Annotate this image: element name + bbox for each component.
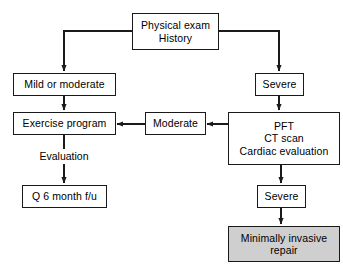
node-moderate-label: Moderate bbox=[153, 117, 198, 130]
node-mild-or-moderate-label: Mild or moderate bbox=[24, 78, 104, 91]
node-exercise-program[interactable]: Exercise program bbox=[13, 112, 116, 135]
flowchart-canvas: Physical exam History Mild or moderate S… bbox=[0, 0, 343, 269]
node-mild-or-moderate[interactable]: Mild or moderate bbox=[13, 73, 116, 96]
node-exercise-program-label: Exercise program bbox=[23, 117, 107, 130]
node-severe-top[interactable]: Severe bbox=[255, 73, 304, 96]
node-minimally-invasive-repair[interactable]: Minimally invasive repair bbox=[228, 226, 340, 262]
edge-exam-to-severe bbox=[218, 31, 279, 71]
edge-label-evaluation: Evaluation bbox=[14, 150, 114, 163]
node-moderate[interactable]: Moderate bbox=[145, 112, 206, 135]
node-followup[interactable]: Q 6 month f/u bbox=[22, 185, 107, 208]
node-minimally-invasive-repair-line1: Minimally invasive bbox=[241, 232, 327, 245]
edge-exam-to-mild bbox=[64, 31, 132, 71]
node-severe-bottom[interactable]: Severe bbox=[257, 185, 306, 208]
node-workup[interactable]: PFT CT scan Cardiac evaluation bbox=[228, 112, 340, 165]
edge-label-evaluation-text: Evaluation bbox=[39, 150, 88, 162]
node-physical-exam[interactable]: Physical exam History bbox=[132, 13, 219, 50]
node-workup-line3: Cardiac evaluation bbox=[240, 145, 329, 158]
node-physical-exam-line2: History bbox=[159, 32, 192, 45]
node-severe-top-label: Severe bbox=[263, 78, 297, 91]
node-severe-bottom-label: Severe bbox=[265, 190, 299, 203]
node-physical-exam-line1: Physical exam bbox=[141, 19, 210, 32]
node-workup-line2: CT scan bbox=[264, 132, 304, 145]
node-minimally-invasive-repair-line2: repair bbox=[270, 244, 297, 257]
node-workup-line1: PFT bbox=[274, 120, 294, 133]
node-followup-label: Q 6 month f/u bbox=[32, 190, 97, 203]
